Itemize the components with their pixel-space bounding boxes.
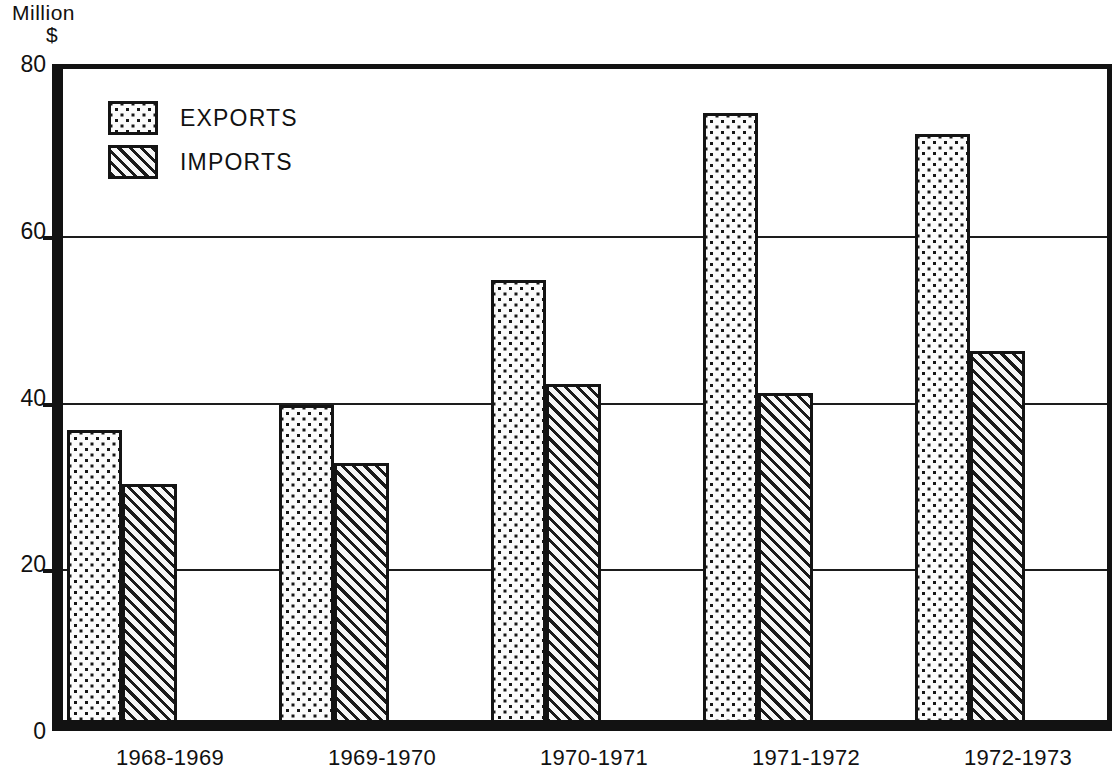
dots-swatch-icon [108, 101, 158, 135]
bar-exports [279, 405, 334, 726]
bar-imports [758, 393, 813, 727]
x-axis-line [57, 720, 1107, 726]
bar-chart: Million $ 020406080 EXPORTS IMPORTS 1968… [0, 0, 1119, 784]
y-axis-line [57, 69, 63, 726]
bar-imports [970, 351, 1025, 726]
y-axis-tick-label: 60 [2, 217, 46, 244]
y-axis-tick-label: 20 [2, 551, 46, 578]
y-axis-tick-labels: 020406080 [0, 0, 46, 784]
bar-exports [915, 134, 970, 726]
bar-exports [491, 280, 546, 726]
bar-exports [67, 430, 122, 726]
y-axis-unit-currency: $ [46, 24, 75, 46]
x-axis-tick-label: 1971-1972 [752, 745, 860, 771]
legend-item-imports: IMPORTS [108, 140, 298, 184]
diagonal-hatch-swatch-icon [108, 145, 158, 179]
bar-imports [334, 463, 389, 726]
bar-imports [546, 384, 601, 726]
legend-item-exports: EXPORTS [108, 96, 298, 140]
legend-label-imports: IMPORTS [180, 149, 293, 176]
bar-exports [703, 113, 758, 726]
chart-legend: EXPORTS IMPORTS [108, 96, 298, 184]
legend-label-exports: EXPORTS [180, 105, 298, 132]
x-axis-tick-label: 1972-1973 [964, 745, 1072, 771]
bar-imports [122, 484, 177, 726]
y-axis-tick-label: 80 [2, 51, 46, 78]
x-axis-tick-label: 1968-1969 [116, 745, 224, 771]
x-axis-tick-label: 1969-1970 [328, 745, 436, 771]
y-axis-tick-label: 40 [2, 384, 46, 411]
x-axis-tick-label: 1970-1971 [540, 745, 648, 771]
y-axis-tick-label: 0 [2, 718, 46, 745]
